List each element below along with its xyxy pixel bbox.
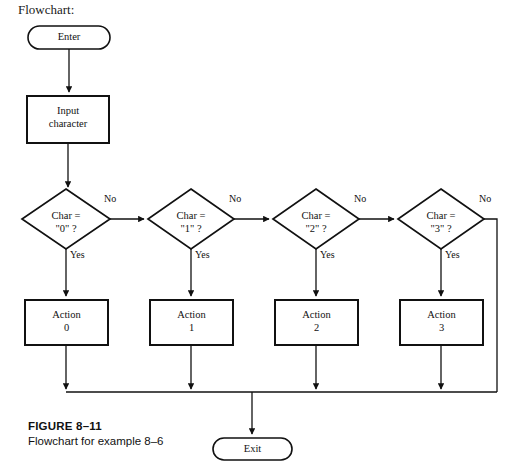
edge-no-3-to-merge-bus xyxy=(484,219,497,392)
decision-3-yes-label: Yes xyxy=(445,249,460,260)
action-0-line1: Action xyxy=(52,309,81,320)
decision-3-line2: "3" ? xyxy=(430,223,451,234)
action-1-line2: 1 xyxy=(189,322,194,333)
flowchart-diagram xyxy=(0,0,521,474)
start-terminal-label: Enter xyxy=(28,31,110,44)
action-0-label: Action0 xyxy=(25,309,108,335)
action-3-label: Action3 xyxy=(400,309,483,335)
action-3-line2: 3 xyxy=(439,322,444,333)
decision-3-label: Char ="3" ? xyxy=(401,210,481,236)
decision-2-line2: "2" ? xyxy=(305,223,326,234)
decision-0-no-label: No xyxy=(104,193,116,204)
action-2-line2: 2 xyxy=(314,322,319,333)
decision-3-line1: Char = xyxy=(427,210,456,221)
decision-2-line1: Char = xyxy=(302,210,331,221)
end-terminal-label: Exit xyxy=(213,443,292,456)
input-process-line2: character xyxy=(49,118,87,129)
decision-1-no-label: No xyxy=(229,193,241,204)
input-process-line1: Input xyxy=(57,105,79,116)
action-2-label: Action2 xyxy=(275,309,358,335)
action-1-line1: Action xyxy=(177,309,206,320)
decision-0-line2: "0" ? xyxy=(55,223,76,234)
decision-0-yes-label: Yes xyxy=(70,249,85,260)
action-0-line2: 0 xyxy=(64,322,69,333)
decision-1-line1: Char = xyxy=(177,210,206,221)
decision-0-label: Char ="0" ? xyxy=(26,210,106,236)
action-3-line1: Action xyxy=(427,309,456,320)
decision-1-label: Char ="1" ? xyxy=(151,210,231,236)
figure-caption: FIGURE 8–11 Flowchart for example 8–6 xyxy=(28,419,164,449)
decision-2-yes-label: Yes xyxy=(320,249,335,260)
flowchart-figure-page: Flowchart: xyxy=(0,0,521,474)
decision-1-line2: "1" ? xyxy=(180,223,201,234)
decision-0-line1: Char = xyxy=(52,210,81,221)
figure-description: Flowchart for example 8–6 xyxy=(28,434,164,449)
action-1-label: Action1 xyxy=(150,309,233,335)
figure-number: FIGURE 8–11 xyxy=(28,419,164,434)
input-process-label: Inputcharacter xyxy=(27,105,109,131)
action-2-line1: Action xyxy=(302,309,331,320)
decision-1-yes-label: Yes xyxy=(195,249,210,260)
decision-2-no-label: No xyxy=(354,193,366,204)
decision-3-no-label: No xyxy=(479,193,491,204)
decision-2-label: Char ="2" ? xyxy=(276,210,356,236)
